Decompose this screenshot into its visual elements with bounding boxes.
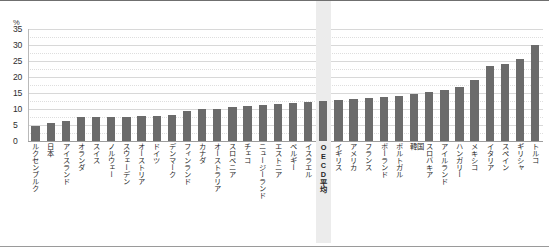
x-axis-label: アイスランド bbox=[62, 143, 70, 243]
x-label-column: オーストラリア bbox=[210, 143, 225, 243]
x-axis-label: エストニア bbox=[274, 143, 282, 243]
x-axis-label: イタリア bbox=[486, 143, 494, 243]
bar[interactable] bbox=[31, 126, 39, 141]
bar[interactable] bbox=[122, 117, 130, 141]
bar-column[interactable] bbox=[119, 29, 134, 141]
bar-column[interactable] bbox=[240, 29, 255, 141]
gridline-0 bbox=[28, 141, 543, 142]
bar[interactable] bbox=[334, 100, 342, 141]
x-label-column: フィンランド bbox=[179, 143, 194, 243]
x-axis-label: メキシコ bbox=[471, 143, 479, 243]
bar-column[interactable] bbox=[346, 29, 361, 141]
bar[interactable] bbox=[137, 116, 145, 141]
y-tick-label-35: 35 bbox=[13, 25, 22, 34]
bar-column[interactable] bbox=[195, 29, 210, 141]
bar[interactable] bbox=[380, 97, 388, 141]
x-label-column: スペイン bbox=[497, 143, 512, 243]
bar-column[interactable] bbox=[513, 29, 528, 141]
bar-column[interactable] bbox=[301, 29, 316, 141]
x-label-column: イタリア bbox=[482, 143, 497, 243]
bar[interactable] bbox=[168, 115, 176, 141]
bar-column[interactable] bbox=[225, 29, 240, 141]
bar-column[interactable] bbox=[376, 29, 391, 141]
bar[interactable] bbox=[319, 101, 327, 141]
bar[interactable] bbox=[395, 96, 403, 141]
bar-column[interactable] bbox=[255, 29, 270, 141]
x-label-column: OECD平均 bbox=[316, 143, 331, 243]
bar-column[interactable] bbox=[43, 29, 58, 141]
x-axis-label: ポーランド bbox=[380, 143, 388, 243]
x-label-column: アイスランド bbox=[58, 143, 73, 243]
x-label-column: ドイツ bbox=[149, 143, 164, 243]
bar[interactable] bbox=[410, 94, 418, 141]
bar-column[interactable] bbox=[316, 29, 331, 141]
x-axis-label: ニュージーランド bbox=[259, 143, 267, 243]
bar[interactable] bbox=[440, 90, 448, 141]
bar-column[interactable] bbox=[407, 29, 422, 141]
bar[interactable] bbox=[183, 111, 191, 141]
bar-column[interactable] bbox=[104, 29, 119, 141]
x-label-column: ベルギー bbox=[285, 143, 300, 243]
x-axis-label: チェコ bbox=[244, 143, 252, 243]
bar-column[interactable] bbox=[482, 29, 497, 141]
bar[interactable] bbox=[213, 109, 221, 141]
bar[interactable] bbox=[243, 106, 251, 141]
x-axis-label: スロベニア bbox=[229, 143, 237, 243]
bar-column[interactable] bbox=[285, 29, 300, 141]
x-axis-labels: ルクセンブルク日本アイスランドオランダスイスノルウェースウェーデンオーストリアド… bbox=[28, 143, 543, 243]
bar[interactable] bbox=[486, 66, 494, 141]
bar-column[interactable] bbox=[497, 29, 512, 141]
x-axis-label: ポルトガル bbox=[395, 143, 403, 243]
x-label-column: オーストリア bbox=[134, 143, 149, 243]
x-axis-label: オーストラリア bbox=[214, 143, 222, 243]
bar[interactable] bbox=[62, 121, 70, 141]
bar-column[interactable] bbox=[437, 29, 452, 141]
bar[interactable] bbox=[228, 107, 236, 141]
bar-column[interactable] bbox=[164, 29, 179, 141]
bar[interactable] bbox=[455, 87, 463, 141]
bar-column[interactable] bbox=[58, 29, 73, 141]
bar[interactable] bbox=[289, 103, 297, 141]
bar[interactable] bbox=[501, 64, 509, 141]
bar-column[interactable] bbox=[149, 29, 164, 141]
bar[interactable] bbox=[365, 98, 373, 141]
bar[interactable] bbox=[198, 109, 206, 141]
bar-column[interactable] bbox=[270, 29, 285, 141]
bar-column[interactable] bbox=[528, 29, 543, 141]
bar[interactable] bbox=[516, 59, 524, 141]
x-label-column: ハンガリー bbox=[452, 143, 467, 243]
bar-column[interactable] bbox=[331, 29, 346, 141]
bar[interactable] bbox=[259, 105, 267, 141]
bar[interactable] bbox=[531, 45, 539, 141]
bar-column[interactable] bbox=[452, 29, 467, 141]
bar-column[interactable] bbox=[134, 29, 149, 141]
bar[interactable] bbox=[304, 102, 312, 141]
bar[interactable] bbox=[470, 80, 478, 141]
bar[interactable] bbox=[425, 92, 433, 141]
bar[interactable] bbox=[107, 117, 115, 141]
bar-column[interactable] bbox=[73, 29, 88, 141]
bar-column[interactable] bbox=[391, 29, 406, 141]
x-label-column: イスラエル bbox=[301, 143, 316, 243]
x-axis-label: OECD平均 bbox=[319, 143, 327, 243]
x-label-column: オランダ bbox=[73, 143, 88, 243]
bar[interactable] bbox=[47, 123, 55, 141]
x-axis-label: 日本 bbox=[47, 143, 55, 243]
bar-column[interactable] bbox=[361, 29, 376, 141]
bar-column[interactable] bbox=[179, 29, 194, 141]
x-label-column: アメリカ bbox=[346, 143, 361, 243]
bar-column[interactable] bbox=[89, 29, 104, 141]
x-label-column: エストニア bbox=[270, 143, 285, 243]
bar[interactable] bbox=[153, 116, 161, 141]
bar[interactable] bbox=[349, 99, 357, 141]
bar[interactable] bbox=[92, 117, 100, 141]
bar-column[interactable] bbox=[422, 29, 437, 141]
bar-column[interactable] bbox=[28, 29, 43, 141]
x-axis-label: 韓国 bbox=[410, 143, 418, 243]
x-axis-label: スロバキア bbox=[425, 143, 433, 243]
bar-column[interactable] bbox=[210, 29, 225, 141]
bar-column[interactable] bbox=[467, 29, 482, 141]
bar[interactable] bbox=[274, 104, 282, 141]
bar[interactable] bbox=[77, 117, 85, 141]
x-label-column: 日本 bbox=[43, 143, 58, 243]
